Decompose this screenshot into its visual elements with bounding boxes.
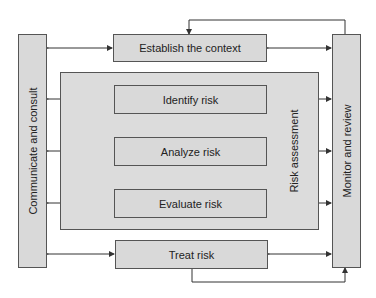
analyze-risk-label: Analyze risk: [161, 146, 220, 158]
establish-context-label: Establish the context: [139, 42, 241, 54]
monitor-and-review-column: Monitor and review: [332, 34, 361, 268]
identify-risk-box: Identify risk: [114, 85, 267, 114]
treat-risk-label: Treat risk: [169, 249, 214, 261]
establish-context-box: Establish the context: [113, 34, 267, 62]
evaluate-risk-box: Evaluate risk: [114, 189, 267, 218]
treat-risk-box: Treat risk: [115, 240, 268, 269]
communicate-and-consult-column: Communicate and consult: [18, 34, 47, 268]
identify-risk-label: Identify risk: [163, 94, 219, 106]
evaluate-risk-label: Evaluate risk: [159, 198, 222, 210]
monitor-and-review-label: Monitor and review: [341, 105, 353, 198]
analyze-risk-box: Analyze risk: [114, 137, 267, 166]
risk-assessment-label: Risk assessment: [288, 109, 300, 192]
communicate-and-consult-label: Communicate and consult: [27, 87, 39, 214]
